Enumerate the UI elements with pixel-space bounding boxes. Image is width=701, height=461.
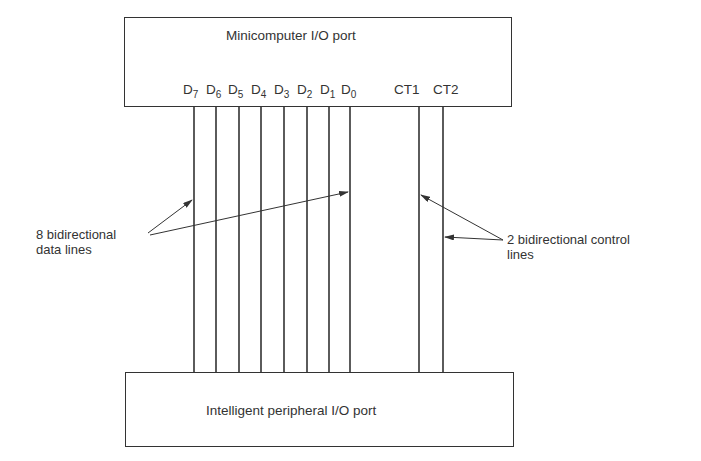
arrow-to-d0 bbox=[150, 192, 348, 235]
control-lines-annotation: 2 bidirectional control lines bbox=[507, 232, 630, 262]
arrow-to-d7 bbox=[148, 200, 192, 233]
arrow-to-ct2 bbox=[445, 237, 503, 240]
data-lines-annotation: 8 bidirectional data lines bbox=[36, 227, 116, 257]
arrow-to-ct1 bbox=[421, 195, 503, 240]
